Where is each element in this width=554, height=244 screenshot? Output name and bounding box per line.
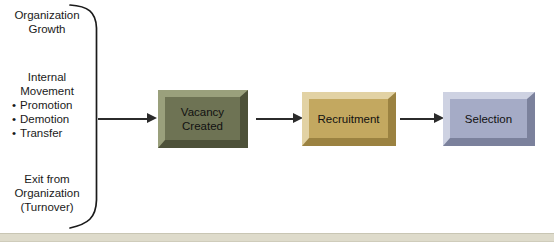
input-line: Movement <box>2 84 92 98</box>
input-line: Exit from <box>2 172 92 186</box>
input-line: Organization <box>2 8 92 22</box>
arrow-shaft <box>400 118 435 120</box>
arrow-recruitment-to-selection <box>400 113 445 125</box>
page-bottom-strip <box>0 233 554 242</box>
input-line: Growth <box>2 22 92 36</box>
node-label-line: Vacancy <box>181 105 224 119</box>
inputs-brace-group: Organization Growth Internal Movement Pr… <box>0 0 112 236</box>
node-recruitment[interactable]: Recruitment <box>302 92 396 146</box>
node-label: Recruitment <box>318 112 380 126</box>
node-vacancy-created[interactable]: Vacancy Created <box>158 90 248 148</box>
node-label-line: Created <box>181 119 224 133</box>
bullet-item: Demotion <box>12 112 92 126</box>
diagram-canvas: Organization Growth Internal Movement Pr… <box>0 0 554 244</box>
node-label-line: Selection <box>465 112 512 126</box>
node-label: Selection <box>465 112 512 126</box>
input-line: Internal <box>2 70 92 84</box>
arrow-shaft <box>256 118 294 120</box>
node-label: Vacancy Created <box>181 105 224 133</box>
node-selection[interactable]: Selection <box>443 92 535 146</box>
bullet-item: Transfer <box>12 126 92 140</box>
input-line: Organization <box>2 186 92 200</box>
arrow-shaft <box>98 118 148 120</box>
arrow-head-icon <box>147 113 157 123</box>
input-group-organization-growth: Organization Growth <box>2 8 92 36</box>
arrow-vacancy-to-recruitment <box>256 113 304 125</box>
node-label-line: Recruitment <box>318 112 380 126</box>
arrow-inputs-to-vacancy <box>98 113 158 125</box>
input-group-internal-movement: Internal Movement Promotion Demotion Tra… <box>2 70 92 140</box>
bullet-item: Promotion <box>12 98 92 112</box>
input-line: (Turnover) <box>2 200 92 214</box>
internal-movement-bullets: Promotion Demotion Transfer <box>2 98 92 140</box>
input-group-exit-from-organization: Exit from Organization (Turnover) <box>2 172 92 214</box>
